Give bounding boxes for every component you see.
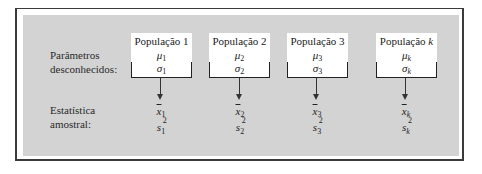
- arrow-down-icon: [239, 78, 240, 95]
- population-std: σk: [376, 62, 437, 78]
- sample-mean-2: x2: [220, 105, 260, 121]
- sample-variance-k: s2k: [386, 121, 426, 138]
- statistics-label-line1: Estatística: [50, 104, 95, 117]
- sample-mean-3: x3: [297, 105, 337, 121]
- population-title: População k: [376, 35, 437, 47]
- population-std: σ2: [209, 62, 270, 78]
- statistics-label-line2: amostral:: [50, 118, 91, 131]
- population-box-3: População 3 μ3 σ3: [287, 33, 348, 78]
- parameters-label-line1: Parâmetros: [50, 49, 99, 62]
- population-box-2: População 2 μ2 σ2: [209, 33, 270, 78]
- population-std: σ1: [131, 62, 192, 78]
- parameters-label-line2: desconhecidos:: [50, 63, 117, 76]
- population-title: População 1: [131, 35, 192, 47]
- sample-variance-2: s22: [220, 121, 260, 138]
- sample-variance-3: s23: [297, 121, 337, 138]
- population-title: População 2: [209, 35, 270, 47]
- sample-variance-1: s21: [141, 121, 181, 138]
- arrow-down-icon: [160, 78, 161, 95]
- sample-mean-1: x1: [141, 105, 181, 121]
- arrow-down-icon: [405, 78, 406, 95]
- population-box-1: População 1 μ1 σ1: [131, 33, 192, 78]
- arrow-down-icon: [316, 78, 317, 95]
- population-box-k: População k μk σk: [376, 33, 437, 78]
- population-title: População 3: [287, 35, 348, 47]
- population-std: σ3: [287, 62, 348, 78]
- sample-mean-k: xk: [386, 105, 426, 121]
